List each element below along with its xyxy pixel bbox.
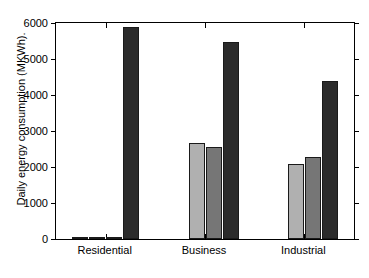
bar-business-series-2 — [189, 143, 205, 239]
y-tick-mark-right — [354, 23, 359, 24]
bar-industrial-series-2 — [288, 164, 304, 239]
y-tick-mark-right — [354, 95, 359, 96]
plot-area: 0100020003000400050006000 — [55, 22, 355, 240]
x-category-label-2: Industrial — [281, 244, 326, 256]
y-tick-mark-right — [354, 131, 359, 132]
x-tick-mark — [304, 23, 305, 28]
x-tick-mark — [106, 23, 107, 28]
bar-residential-series-4 — [123, 27, 139, 239]
bar-residential-series-1 — [72, 237, 88, 239]
y-tick-mark-right — [354, 203, 359, 204]
x-tick-mark — [205, 23, 206, 28]
y-tick-mark — [51, 203, 56, 204]
bar-industrial-series-4 — [322, 81, 338, 239]
y-tick-mark — [51, 239, 56, 240]
bar-residential-series-3 — [106, 237, 122, 239]
y-tick-label: 6000 — [24, 17, 48, 29]
x-category-label-0: Residential — [77, 244, 131, 256]
y-tick-mark — [51, 23, 56, 24]
y-tick-mark — [51, 59, 56, 60]
y-tick-mark-right — [354, 239, 359, 240]
bar-business-series-3 — [206, 147, 222, 239]
bar-business-series-4 — [223, 42, 239, 239]
y-tick-label: 1000 — [24, 197, 48, 209]
y-tick-label: 4000 — [24, 89, 48, 101]
y-tick-mark-right — [354, 167, 359, 168]
y-tick-mark — [51, 95, 56, 96]
y-tick-label: 0 — [42, 233, 48, 245]
y-tick-label: 2000 — [24, 161, 48, 173]
chart-figure: Daily energy consumption (MKWh). 0100020… — [0, 0, 369, 278]
y-tick-label: 3000 — [24, 125, 48, 137]
plot-inner: 0100020003000400050006000 — [56, 23, 354, 239]
y-tick-mark — [51, 131, 56, 132]
y-tick-mark — [51, 167, 56, 168]
bar-residential-series-2 — [89, 237, 105, 239]
bar-industrial-series-3 — [305, 157, 321, 239]
y-tick-mark-right — [354, 59, 359, 60]
y-tick-label: 5000 — [24, 53, 48, 65]
x-category-label-1: Business — [182, 244, 227, 256]
